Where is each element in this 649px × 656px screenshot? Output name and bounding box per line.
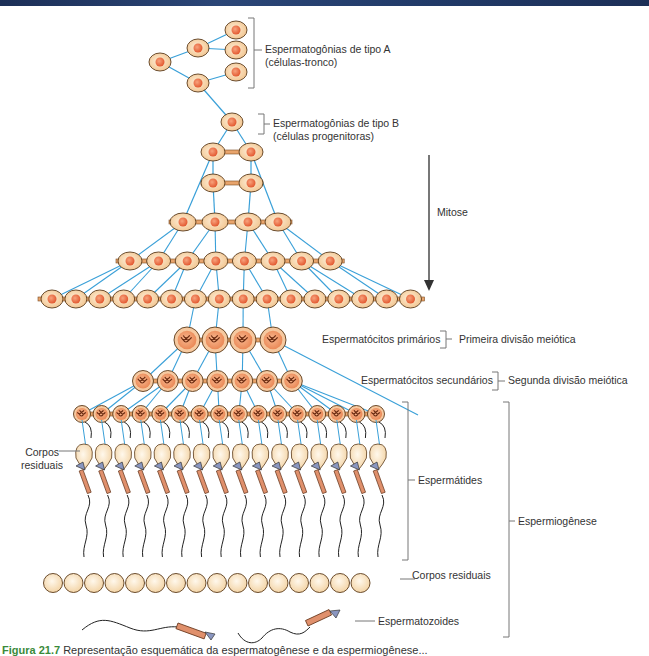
spermiogenesis-label: Espermiogênese [518, 515, 597, 528]
midpiece [79, 470, 91, 494]
acrosome [272, 462, 281, 470]
spermatids-label: Espermátides [418, 474, 482, 487]
type-b-label: Espermatogônias de tipo B (células proge… [273, 117, 399, 143]
acrosome [311, 462, 320, 470]
nucleus [239, 295, 248, 304]
spermatozoa-label: Espermatozoides [378, 615, 459, 628]
nucleus [154, 257, 163, 266]
midpiece [99, 470, 111, 494]
nucleus [287, 295, 296, 304]
nucleus [143, 295, 152, 304]
residual-bodies-label: Corpos residuais [412, 569, 491, 582]
midpiece [354, 470, 366, 494]
acrosome [213, 462, 222, 470]
nucleus [191, 295, 200, 304]
midpiece [197, 470, 209, 494]
midpiece [295, 470, 307, 494]
tail [142, 495, 148, 557]
nucleus [126, 257, 135, 266]
nucleus [358, 295, 367, 304]
nucleus [228, 118, 237, 127]
nucleus [71, 295, 80, 304]
nucleus [232, 46, 241, 55]
midpiece [314, 470, 326, 494]
primary-spermatocytes-label: Espermatócitos primários [322, 333, 440, 346]
residual-body [269, 574, 288, 593]
residual-body [126, 574, 145, 593]
nucleus [167, 295, 176, 304]
tail [260, 495, 266, 557]
first-meiotic-division-label: Primeira divisão meiótica [459, 333, 576, 346]
nucleus [274, 218, 283, 227]
nucleus [326, 257, 335, 266]
nucleus [244, 218, 253, 227]
tail [319, 495, 325, 557]
tail [358, 495, 364, 557]
residual-body [44, 574, 63, 593]
midpiece [177, 470, 189, 494]
residual-body [187, 574, 206, 593]
acrosome [252, 462, 261, 470]
residual-body [105, 574, 124, 593]
lineage-connectors [160, 30, 278, 222]
nucleus [382, 295, 391, 304]
acrosome [115, 462, 124, 470]
nucleus [310, 295, 319, 304]
spermatids [76, 420, 387, 557]
midpiece [158, 470, 170, 494]
residual-body [290, 574, 309, 593]
nucleus [247, 148, 256, 157]
tail [240, 495, 246, 557]
midpiece [256, 470, 268, 494]
acrosome [292, 462, 301, 470]
residual-body [85, 574, 104, 593]
acrosome [96, 462, 105, 470]
midpiece [275, 470, 287, 494]
nucleus [95, 295, 104, 304]
brackets [59, 18, 515, 637]
acrosome [350, 462, 359, 470]
acrosome [135, 462, 144, 470]
acrosome [154, 462, 163, 470]
nucleus [183, 257, 192, 266]
residual-bodies-left-label: Corpos residuais [21, 446, 59, 472]
tail [299, 495, 305, 557]
figure-caption: Figura 21.7 Representação esquemática da… [2, 644, 428, 656]
secondary-spermatocytes-label: Espermatócitos secundários [361, 374, 493, 387]
type-a-label: Espermatogônias de tipo A (células-tronc… [265, 43, 391, 69]
residual-body [331, 574, 350, 593]
tail [162, 495, 168, 557]
residual-body [208, 574, 227, 593]
tail [84, 495, 90, 557]
acrosome [331, 462, 340, 470]
tail [280, 495, 286, 557]
nucleus [194, 79, 203, 88]
midpiece [118, 470, 130, 494]
nucleus [209, 179, 218, 188]
residual-body [249, 574, 268, 593]
nucleus [179, 218, 188, 227]
nucleus [297, 257, 306, 266]
acrosome [233, 462, 242, 470]
nucleus [156, 58, 165, 67]
midpiece [334, 470, 346, 494]
tail [378, 495, 384, 557]
nucleus [240, 257, 249, 266]
midpiece [373, 470, 385, 494]
mitose-arrow [424, 155, 434, 291]
nucleus [232, 26, 241, 35]
midpiece [216, 470, 228, 494]
mitose-label: Mitose [437, 206, 468, 219]
tail [201, 495, 207, 557]
tail [182, 495, 188, 557]
tail [338, 495, 344, 557]
residual-bodies-row [44, 574, 371, 593]
nucleus [263, 295, 272, 304]
nucleus [232, 68, 241, 77]
nucleus [334, 295, 343, 304]
nucleus [194, 44, 203, 53]
midpiece [236, 470, 248, 494]
residual-body [228, 574, 247, 593]
tail [123, 495, 129, 557]
tail [221, 495, 227, 557]
